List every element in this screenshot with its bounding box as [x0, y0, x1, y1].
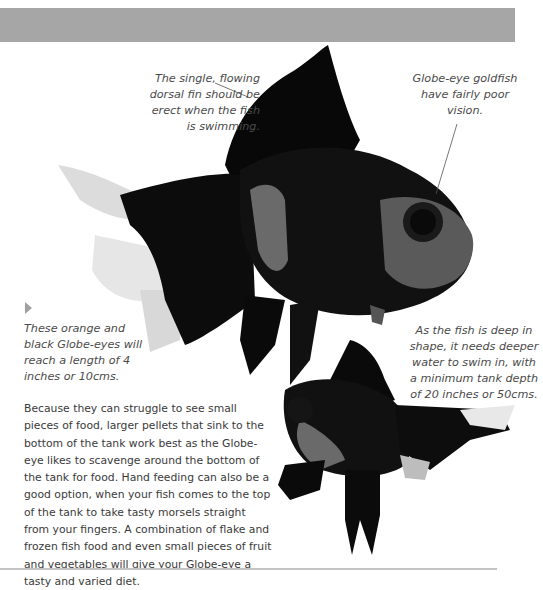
caption-length: These orange and black Globe-eyes will r… [24, 321, 154, 385]
footer-rule [0, 568, 497, 570]
caption-vision: Globe-eye goldfish have fairly poor visi… [410, 71, 520, 119]
caption-dorsal-fin: The single, flowing dorsal fin should be… [140, 71, 260, 135]
caption-tank-depth: As the fish is deep in shape, it needs d… [408, 323, 540, 403]
body-paragraph: Because they can struggle to see small p… [24, 400, 274, 590]
triangle-right-icon [25, 302, 32, 314]
